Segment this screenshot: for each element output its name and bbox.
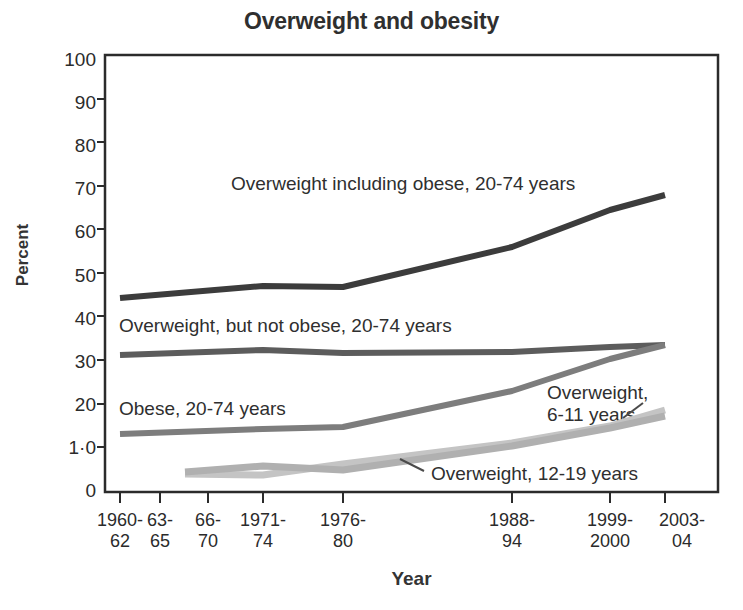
x-axis-ticks: [120, 492, 665, 503]
series-line-obese: [120, 345, 665, 434]
chart-figure: Overweight and obesity Percent Year 100 …: [0, 0, 743, 610]
series-line-overweight-12-19: [185, 416, 665, 472]
plot-area: [0, 0, 743, 610]
series-line-overweight-including-obese: [120, 195, 665, 298]
series-line-overweight-not-obese: [120, 345, 665, 355]
